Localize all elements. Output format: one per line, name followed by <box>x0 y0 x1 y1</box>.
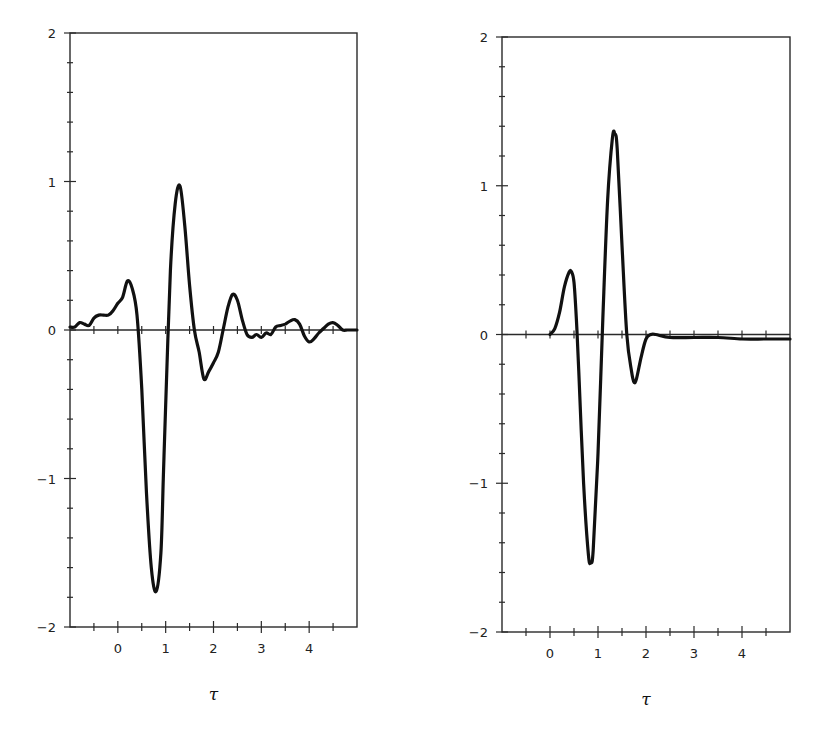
right-chart-panel: −2−101201234τ <box>469 30 790 709</box>
left-chart-panel: −2−101201234τ <box>37 26 357 704</box>
y-tick-label: −2 <box>469 625 488 640</box>
y-tick-label: 1 <box>48 175 56 190</box>
x-tick-label: 0 <box>546 646 554 661</box>
y-tick-label: 0 <box>48 323 56 338</box>
x-tick-label: 0 <box>114 641 122 656</box>
y-tick-label: 2 <box>48 26 56 41</box>
waveform-line <box>550 131 790 564</box>
x-tick-label: 1 <box>594 646 602 661</box>
y-tick-label: 2 <box>480 30 488 45</box>
y-tick-label: −1 <box>469 476 488 491</box>
x-tick-label: 3 <box>690 646 698 661</box>
x-tick-label: 3 <box>257 641 265 656</box>
x-tick-label: 4 <box>305 641 313 656</box>
y-tick-label: 1 <box>480 179 488 194</box>
y-tick-label: −2 <box>37 620 56 635</box>
y-tick-label: −1 <box>37 472 56 487</box>
x-axis-title: τ <box>641 689 651 709</box>
x-tick-label: 2 <box>642 646 650 661</box>
x-tick-label: 1 <box>162 641 170 656</box>
y-tick-label: 0 <box>480 328 488 343</box>
x-tick-label: 4 <box>738 646 746 661</box>
x-tick-label: 2 <box>209 641 217 656</box>
waveform-line <box>70 185 357 592</box>
x-axis-title: τ <box>209 684 219 704</box>
figure: −2−101201234τ −2−101201234τ <box>0 0 815 733</box>
